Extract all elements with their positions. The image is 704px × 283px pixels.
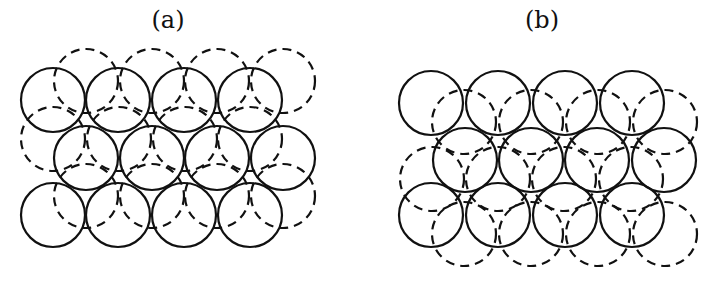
panel-b-circles bbox=[399, 71, 697, 266]
dashed-circle bbox=[566, 202, 630, 266]
dashed-circle bbox=[532, 147, 596, 211]
dashed-circle bbox=[21, 107, 85, 171]
solid-circle bbox=[533, 183, 597, 247]
dashed-circle bbox=[87, 107, 151, 171]
solid-circle bbox=[533, 71, 597, 135]
solid-circle bbox=[251, 126, 315, 190]
solid-circle bbox=[433, 128, 497, 192]
solid-circle bbox=[600, 71, 664, 135]
dashed-circle bbox=[466, 147, 530, 211]
solid-circle bbox=[466, 71, 530, 135]
dashed-circle bbox=[400, 147, 464, 211]
dashed-circle bbox=[432, 202, 496, 266]
solid-circle bbox=[399, 71, 463, 135]
solid-circle bbox=[21, 68, 85, 132]
solid-circle bbox=[499, 128, 563, 192]
dashed-circle bbox=[566, 90, 630, 154]
dashed-circle bbox=[185, 164, 249, 228]
solid-circle bbox=[399, 183, 463, 247]
solid-circle bbox=[466, 183, 530, 247]
solid-circle bbox=[54, 126, 118, 190]
solid-circle bbox=[218, 183, 282, 247]
solid-circle bbox=[600, 183, 664, 247]
solid-circle bbox=[21, 183, 85, 247]
panel-a-circles bbox=[21, 49, 315, 247]
solid-circle bbox=[120, 126, 184, 190]
circle-packing-diagram bbox=[0, 0, 704, 283]
dashed-circle bbox=[499, 202, 563, 266]
dashed-circle bbox=[432, 90, 496, 154]
solid-circle bbox=[218, 68, 282, 132]
dashed-circle bbox=[499, 90, 563, 154]
solid-circle bbox=[565, 128, 629, 192]
dashed-circle bbox=[633, 202, 697, 266]
dashed-circle bbox=[633, 90, 697, 154]
dashed-circle bbox=[218, 107, 282, 171]
dashed-circle bbox=[251, 164, 315, 228]
dashed-circle bbox=[185, 49, 249, 113]
solid-circle bbox=[632, 128, 696, 192]
dashed-circle bbox=[251, 49, 315, 113]
dashed-circle bbox=[599, 147, 663, 211]
